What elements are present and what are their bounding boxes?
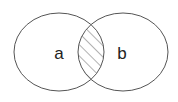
set-b-label: b (117, 44, 126, 63)
set-a-label: a (54, 44, 64, 63)
venn-diagram: a b (0, 0, 178, 102)
